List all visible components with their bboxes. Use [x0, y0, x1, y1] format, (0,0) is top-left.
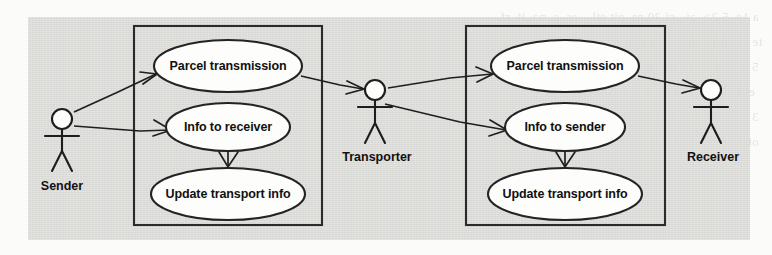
dependency-info-to-sender-to-update: [556, 151, 575, 167]
association-parcel-transmission-to-receiver: [638, 76, 700, 93]
actor-label: Sender: [41, 179, 84, 193]
association-sender-to-parcel-transmission: [74, 72, 157, 112]
association-parcel-transmission-to-transporter: [301, 76, 364, 94]
use-case-label: Parcel transmission: [507, 59, 624, 73]
use-case-info-to-sender[interactable]: Info to sender: [505, 103, 625, 151]
use-case-update-transport-info-left[interactable]: Update transport info: [151, 168, 305, 220]
actor-head-icon: [52, 109, 72, 129]
association-sender-to-info-to-receiver: [74, 120, 171, 136]
use-case-label: Info to sender: [524, 120, 605, 134]
actor-label: Transporter: [342, 150, 412, 164]
use-case-label: Update transport info: [503, 187, 628, 201]
use-case-info-to-receiver[interactable]: Info to receiver: [166, 103, 290, 151]
association-transporter-to-parcel-transmission: [388, 67, 493, 88]
use-case-label: Info to receiver: [184, 120, 272, 134]
scanned-page: a 1e 5 2> ai ci 20 nr oit etl es s na it…: [0, 0, 772, 255]
actor-head-icon: [365, 80, 385, 100]
actor-head-icon: [701, 80, 721, 100]
use-case-parcel-transmission-left[interactable]: Parcel transmission: [154, 40, 302, 92]
actor-sender[interactable]: Sender: [41, 109, 84, 193]
use-case-parcel-transmission-right[interactable]: Parcel transmission: [491, 40, 639, 92]
use-case-update-transport-info-right[interactable]: Update transport info: [488, 168, 642, 220]
association-transporter-to-info-to-sender: [385, 104, 507, 136]
use-case-diagram: Parcel transmission Info to receiver Upd…: [0, 0, 772, 255]
use-case-label: Parcel transmission: [170, 59, 287, 73]
actor-receiver[interactable]: Receiver: [687, 80, 739, 164]
dependency-info-to-receiver-to-update: [219, 151, 238, 167]
actor-label: Receiver: [687, 150, 739, 164]
actor-body-icon: [45, 129, 79, 171]
actor-body-icon: [358, 100, 392, 143]
use-case-label: Update transport info: [166, 187, 291, 201]
actor-body-icon: [694, 100, 728, 143]
